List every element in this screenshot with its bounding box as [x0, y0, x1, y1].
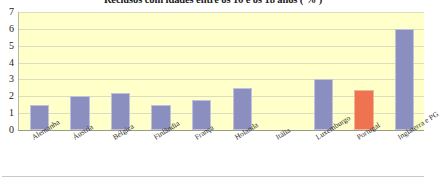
y-tick-label: 7: [0, 7, 14, 17]
chart-title: Reclusos com idades entre os 16 e os 18 …: [0, 0, 426, 6]
y-tick-label: 3: [0, 74, 14, 84]
y-tick-label: 0: [0, 125, 14, 135]
bottom-divider: [2, 176, 424, 177]
y-tick-label: 5: [0, 41, 14, 51]
y-axis: 01234567: [0, 6, 16, 136]
plot-area: [18, 12, 424, 130]
y-tick-label: 6: [0, 24, 14, 34]
y-tick-label: 1: [0, 108, 14, 118]
y-tick-label: 2: [0, 91, 14, 101]
y-tick-label: 4: [0, 58, 14, 68]
bar: [395, 29, 414, 130]
bar-series: [19, 12, 424, 130]
